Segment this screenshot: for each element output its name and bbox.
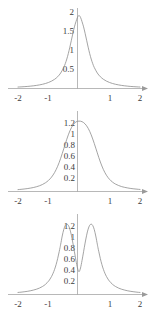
tick-labels-x-middle: -2 -1 1 2 [14,196,142,206]
y-tick-label: 1.2 [64,118,75,128]
chart-svg-middle: -2 -1 1 2 0.2 0.4 0.6 0.8 1 1.2 [0,103,151,208]
y-tick-label: 2 [70,7,75,17]
tick-labels-y-middle: 0.2 0.4 0.6 0.8 1 1.2 [64,118,76,184]
chart-svg-top: -2 -1 1 2 0.5 1 1.5 2 [0,0,151,105]
x-tick-label: -1 [44,299,52,309]
x-axis-arrow-icon [142,86,148,91]
axes-top [8,8,148,91]
x-tick-label: 2 [138,93,143,103]
tick-labels-y-bottom: 0.2 0.4 0.6 0.8 1 1.2 [64,221,76,287]
data-curve [18,121,140,189]
y-tick-label: 1 [71,129,76,139]
chart-panel-top: -2 -1 1 2 0.5 1 1.5 2 [0,0,151,105]
y-tick-label: 0.6 [64,254,76,264]
x-tick-label: 1 [108,196,113,206]
data-curve [18,15,140,87]
axes-bottom [8,214,148,297]
axes-middle [8,111,148,194]
x-tick-label: -1 [44,93,52,103]
y-tick-label: 0.2 [64,276,75,286]
x-tick-label: -1 [44,196,52,206]
x-tick-label: -2 [14,196,22,206]
x-tick-label: 1 [108,93,113,103]
x-tick-label: 1 [108,299,113,309]
figure-sheet: -2 -1 1 2 0.5 1 1.5 2 -2 -1 [0,0,151,313]
x-tick-label: -2 [14,299,22,309]
chart-svg-bottom: -2 -1 1 2 0.2 0.4 0.6 0.8 1 1.2 [0,206,151,313]
tick-labels-x-bottom: -2 -1 1 2 [14,299,142,309]
y-tick-label: 0.6 [64,151,76,161]
x-tick-label: 2 [138,299,143,309]
data-curve [18,224,140,292]
tick-labels-y-top: 0.5 1 1.5 2 [63,7,75,73]
tick-labels-x-top: -2 -1 1 2 [14,93,142,103]
y-tick-label: 0.2 [64,173,75,183]
x-axis-arrow-icon [142,292,148,297]
chart-panel-middle: -2 -1 1 2 0.2 0.4 0.6 0.8 1 1.2 [0,103,151,208]
x-tick-label: -2 [14,93,22,103]
y-tick-label: 0.4 [64,265,76,275]
chart-panel-bottom: -2 -1 1 2 0.2 0.4 0.6 0.8 1 1.2 [0,206,151,313]
x-tick-label: 2 [138,196,143,206]
x-axis-arrow-icon [142,189,148,194]
y-tick-label: 0.4 [64,162,76,172]
y-tick-label: 0.8 [64,140,76,150]
